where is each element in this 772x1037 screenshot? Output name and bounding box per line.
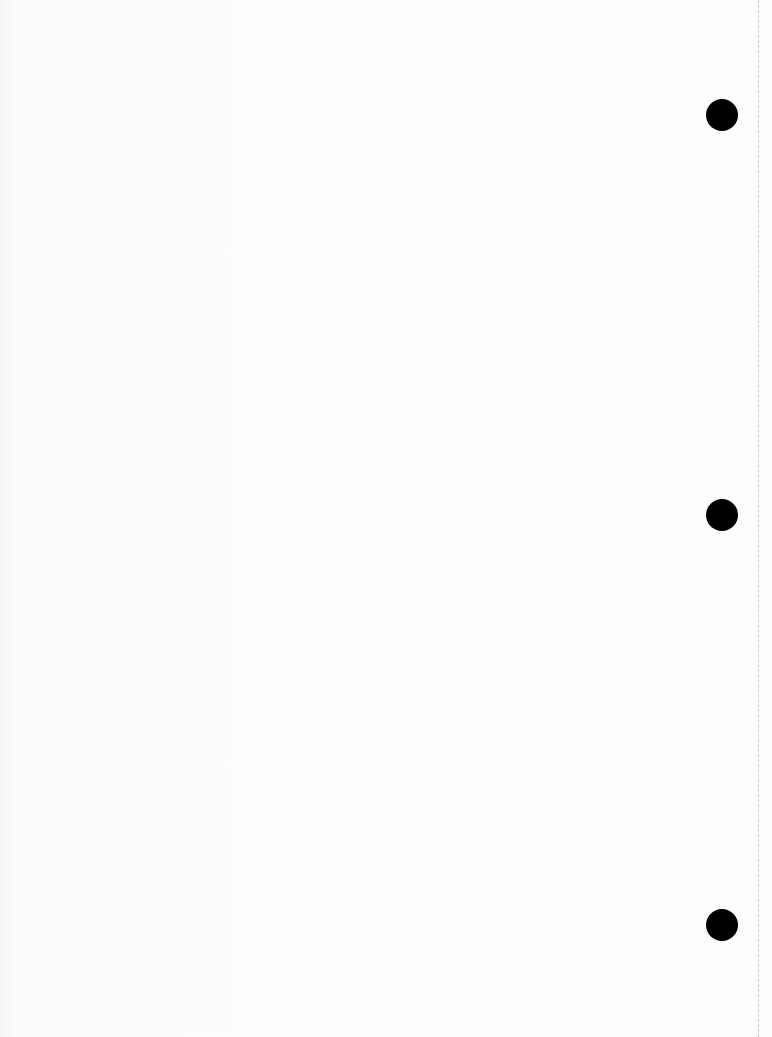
hole-punch-top bbox=[706, 99, 738, 131]
hole-punch-middle bbox=[706, 499, 738, 531]
hole-punch-bottom bbox=[706, 909, 738, 941]
perforation-line bbox=[758, 0, 759, 1037]
blank-page bbox=[0, 0, 772, 1037]
